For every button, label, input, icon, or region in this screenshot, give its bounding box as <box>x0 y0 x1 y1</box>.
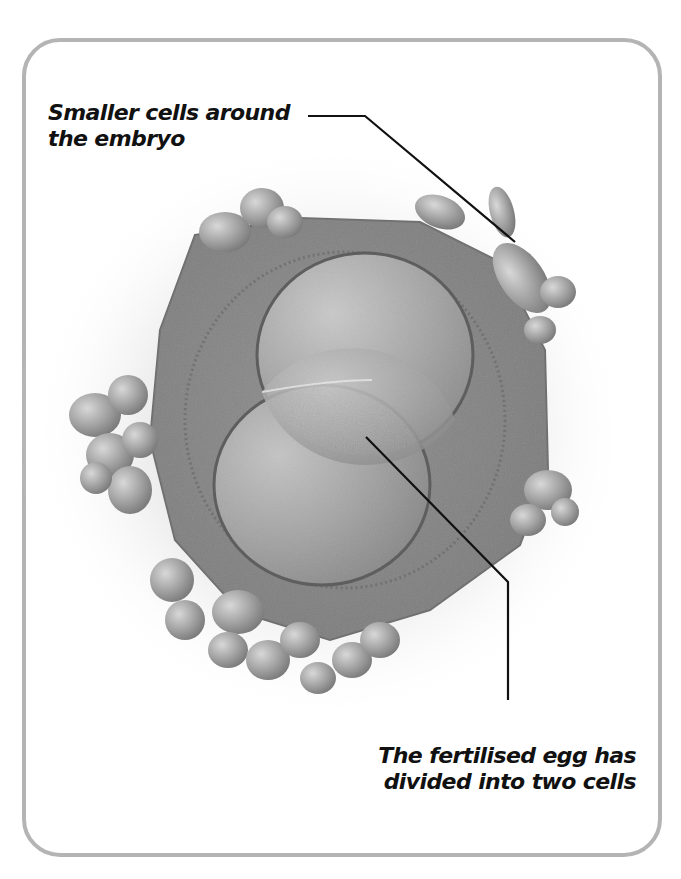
label-two-cells-line2: divided into two cells <box>378 769 636 795</box>
label-surrounding-cells-line1: Smaller cells around <box>48 100 290 126</box>
label-two-cells-line1: The fertilised egg has <box>378 743 636 769</box>
label-two-cells: The fertilised egg has divided into two … <box>378 743 636 795</box>
label-surrounding-cells: Smaller cells around the embryo <box>48 100 290 152</box>
label-surrounding-cells-line2: the embryo <box>48 126 290 152</box>
